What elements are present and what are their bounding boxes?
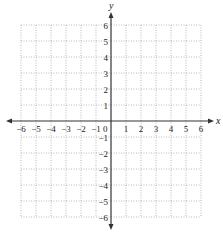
y-tick-label: 6 <box>104 21 109 31</box>
x-tick-label: 5 <box>184 124 189 134</box>
y-tick-label: 1 <box>104 101 109 111</box>
y-axis-top-arrow-icon <box>109 12 114 18</box>
x-tick-label: −2 <box>76 124 86 134</box>
x-tick-label: −5 <box>31 124 41 134</box>
x-tick-label: 2 <box>139 124 144 134</box>
x-axis-right-arrow-icon <box>208 119 214 124</box>
y-axis-label: y <box>108 0 114 11</box>
x-axis-left-arrow-icon <box>6 119 12 124</box>
y-axis-bottom-arrow-icon <box>109 224 114 230</box>
y-tick-label: −1 <box>98 133 108 143</box>
axes <box>6 12 214 230</box>
coordinate-plane: −6−5−4−3−2−1123456654321−1−2−3−4−5−6 x y… <box>0 0 223 234</box>
x-tick-label: 4 <box>169 124 174 134</box>
x-tick-label: −3 <box>61 124 71 134</box>
y-tick-label: −2 <box>98 149 108 159</box>
x-tick-label: −4 <box>46 124 56 134</box>
x-tick-label: 1 <box>124 124 129 134</box>
x-axis-label: x <box>215 115 221 126</box>
y-tick-label: −4 <box>98 181 108 191</box>
y-tick-label: −5 <box>98 197 108 207</box>
y-tick-label: 4 <box>104 53 109 63</box>
y-tick-label: 3 <box>104 69 109 79</box>
y-tick-label: 5 <box>104 37 109 47</box>
x-tick-label: 6 <box>199 124 204 134</box>
y-tick-label: −3 <box>98 165 108 175</box>
y-tick-label: −6 <box>98 213 108 223</box>
x-tick-label: 3 <box>154 124 159 134</box>
origin-label: 0 <box>103 124 108 134</box>
y-tick-label: 2 <box>104 85 109 95</box>
x-tick-label: −6 <box>16 124 26 134</box>
